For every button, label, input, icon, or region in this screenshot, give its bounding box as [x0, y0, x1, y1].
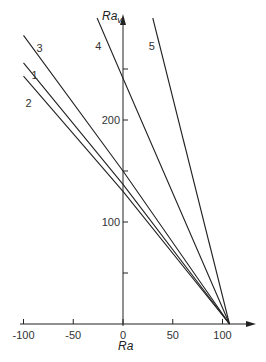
axes: [20, 14, 256, 327]
series-line-3: [24, 35, 230, 324]
x-tick-label: 50: [167, 329, 179, 341]
x-tick-label: -100: [12, 329, 34, 341]
series-label-3: 3: [36, 42, 42, 54]
series-label-4: 4: [95, 40, 101, 52]
series-line-5: [153, 18, 230, 324]
series-label-2: 2: [25, 97, 31, 109]
chart: -100-50050100 100200 12345 Ra Rav: [0, 0, 266, 362]
y-axis-title: Rav: [102, 9, 122, 25]
x-axis-arrow-icon: [246, 321, 256, 327]
series-line-4: [97, 18, 229, 324]
series-label-5: 5: [149, 40, 155, 52]
y-tick-label: 200: [102, 114, 120, 126]
series-label-1: 1: [31, 69, 37, 81]
x-tick-label: 100: [213, 329, 231, 341]
x-tick-label: -50: [65, 329, 81, 341]
y-tick-label: 100: [102, 216, 120, 228]
x-axis-title: Ra: [118, 339, 134, 353]
series-labels: 12345: [25, 40, 155, 109]
x-ticks: -100-50050100: [12, 319, 231, 341]
